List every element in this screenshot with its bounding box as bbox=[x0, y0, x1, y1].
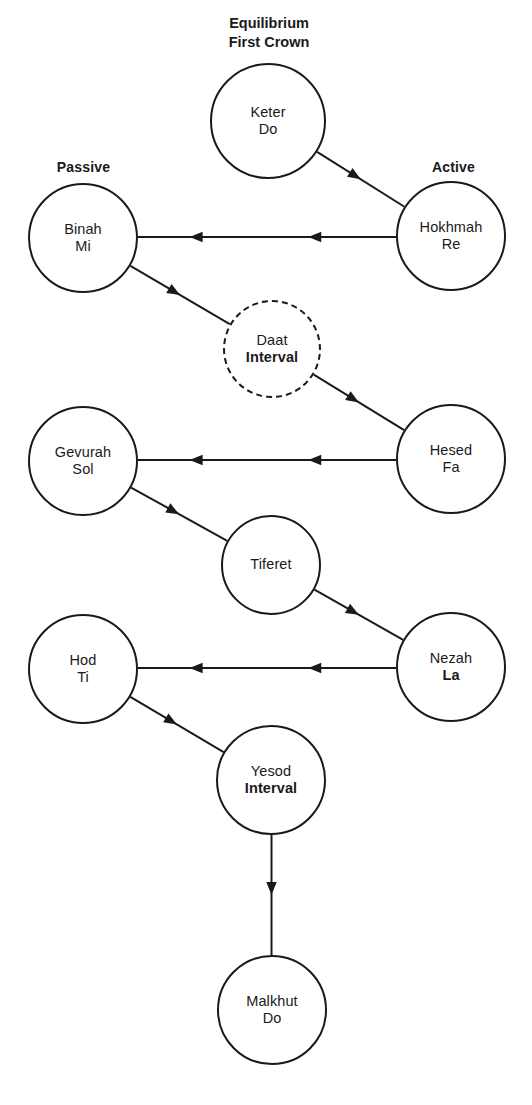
arrowhead-gevurah-tiferet bbox=[165, 503, 179, 514]
arrowhead-nezah-hod-2 bbox=[190, 663, 203, 673]
arrowhead-daat-hesed bbox=[345, 391, 359, 402]
first-crown-line: First Crown bbox=[176, 33, 362, 52]
node-label-secondary: Sol bbox=[72, 461, 93, 478]
node-label-secondary: Do bbox=[259, 121, 278, 138]
arrowhead-hokhmah-binah-1 bbox=[308, 232, 321, 242]
edge-tiferet-nezah bbox=[315, 590, 404, 640]
node-tiferet[interactable]: Tiferet bbox=[221, 515, 321, 615]
node-label-secondary: Ti bbox=[77, 669, 89, 686]
node-label-primary: Hokhmah bbox=[420, 219, 483, 236]
arrowhead-hesed-gevurah-2 bbox=[190, 455, 203, 465]
node-gevurah[interactable]: GevurahSol bbox=[28, 406, 138, 516]
node-label-secondary: Interval bbox=[245, 780, 297, 797]
passive-pillar-label: Passive bbox=[26, 159, 141, 175]
node-keter[interactable]: KeterDo bbox=[210, 63, 326, 179]
edge-daat-hesed bbox=[314, 375, 404, 431]
equilibrium-line: Equilibrium bbox=[176, 14, 362, 33]
node-label-secondary: Re bbox=[442, 236, 461, 253]
active-pillar-label: Active bbox=[396, 159, 511, 175]
arrowhead-keter-hokhmah bbox=[347, 168, 361, 179]
arrowhead-tiferet-nezah bbox=[345, 604, 359, 615]
node-label-primary: Yesod bbox=[251, 763, 291, 780]
node-label-secondary: Interval bbox=[246, 349, 298, 366]
edge-keter-hokhmah bbox=[317, 152, 404, 207]
node-label-secondary: Do bbox=[263, 1010, 282, 1027]
node-label-primary: Malkhut bbox=[246, 993, 297, 1010]
node-hesed[interactable]: HesedFa bbox=[396, 404, 506, 514]
equilibrium-first-crown-label: Equilibrium First Crown bbox=[176, 14, 362, 52]
node-label-primary: Daat bbox=[256, 332, 287, 349]
arrowhead-binah-daat bbox=[166, 284, 180, 295]
node-nezah[interactable]: NezahLa bbox=[396, 612, 506, 722]
arrowhead-hokhmah-binah-2 bbox=[190, 232, 203, 242]
edge-gevurah-tiferet bbox=[131, 488, 227, 541]
node-label-primary: Gevurah bbox=[55, 444, 111, 461]
node-yesod[interactable]: YesodInterval bbox=[216, 725, 326, 835]
tree-of-life-diagram: Equilibrium First Crown Passive Active K… bbox=[0, 0, 532, 1105]
node-malkhut[interactable]: MalkhutDo bbox=[217, 955, 327, 1065]
node-label-primary: Keter bbox=[250, 104, 285, 121]
node-label-secondary: Mi bbox=[75, 238, 91, 255]
arrowhead-yesod-malkhut bbox=[266, 882, 276, 895]
node-label-primary: Tiferet bbox=[250, 556, 291, 573]
node-label-primary: Nezah bbox=[430, 650, 472, 667]
arrowhead-hesed-gevurah-1 bbox=[308, 455, 321, 465]
arrowhead-hod-yesod bbox=[163, 713, 177, 724]
node-binah[interactable]: BinahMi bbox=[28, 183, 138, 293]
node-hokhmah[interactable]: HokhmahRe bbox=[396, 181, 506, 291]
arrowhead-nezah-hod-1 bbox=[308, 663, 321, 673]
node-label-primary: Hod bbox=[70, 652, 97, 669]
node-label-secondary: La bbox=[442, 667, 459, 684]
node-label-primary: Hesed bbox=[430, 442, 472, 459]
node-label-primary: Binah bbox=[64, 221, 102, 238]
node-daat[interactable]: DaatInterval bbox=[223, 300, 321, 398]
node-label-secondary: Fa bbox=[442, 459, 459, 476]
node-hod[interactable]: HodTi bbox=[28, 614, 138, 724]
